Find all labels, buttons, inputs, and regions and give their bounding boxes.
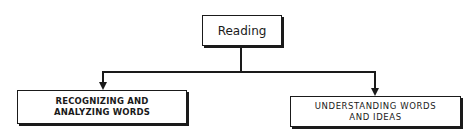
arrow-down-icon <box>99 82 107 90</box>
node-understanding-words-ideas: UNDERSTANDING WORDS AND IDEAS <box>290 96 461 127</box>
node-recognizing-analyzing-words: RECOGNIZING AND ANALYZING WORDS <box>17 90 187 124</box>
node-label-line: UNDERSTANDING WORDS <box>315 101 437 112</box>
connector-root-stem <box>240 46 242 73</box>
arrow-down-icon <box>371 88 379 96</box>
node-label-line: RECOGNIZING AND <box>54 96 150 107</box>
node-reading: Reading <box>202 15 282 46</box>
node-label: Reading <box>218 24 267 38</box>
node-label-line: AND IDEAS <box>315 112 437 123</box>
connector-horizontal-bar <box>102 71 376 73</box>
node-label-line: ANALYZING WORDS <box>54 107 150 118</box>
